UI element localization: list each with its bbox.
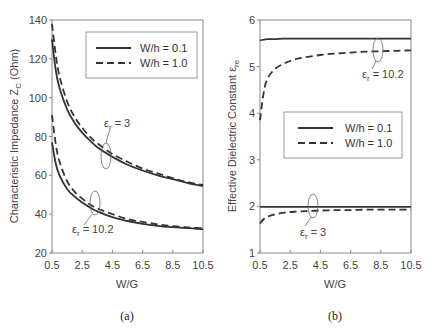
series-line-dashed (260, 50, 411, 120)
legend-b: W/h = 0.1 W/h = 1.0 (284, 112, 402, 158)
annotation-er10-b: εr = 10.2 (362, 38, 404, 83)
y-tick-label: 1 (249, 247, 255, 259)
y-tick-label: 40 (35, 208, 47, 220)
x-tick-label: 10.5 (192, 259, 213, 271)
y-tick-label: 20 (35, 247, 47, 259)
y-tick-label: 4 (249, 107, 255, 119)
annotation-label-er3-a: εr = 3 (104, 117, 130, 132)
x-tick-label: 0.5 (252, 259, 267, 271)
annotation-ellipse-er10-b (373, 38, 383, 62)
x-tick-label: 8.5 (165, 259, 180, 271)
x-tick-label: 2.5 (75, 259, 90, 271)
legend-label-solid-b: W/h = 0.1 (345, 122, 392, 134)
series-line-solid (52, 142, 203, 229)
legend-label-dashed-b: W/h = 1.0 (345, 137, 392, 149)
y-tick-label: 2 (249, 200, 255, 212)
legend-label-solid-a: W/h = 0.1 (140, 42, 187, 54)
legend-box-b (284, 112, 402, 158)
annotation-label-er3-b: εr = 3 (300, 226, 326, 241)
series-line-dashed (260, 210, 411, 224)
y-tick-label: 100 (29, 92, 47, 104)
y-tick-label: 60 (35, 169, 47, 181)
y-tick-label: 3 (249, 154, 255, 166)
legend-box-a (86, 32, 197, 78)
legend-a: W/h = 0.1 W/h = 1.0 (86, 32, 197, 78)
x-tick-label: 10.5 (400, 259, 421, 271)
figure: 20406080100120140 0.52.54.56.58.510.5 W/… (0, 0, 435, 334)
annotation-label-er10-a: εr = 10.2 (72, 223, 114, 238)
y-axis-label-a: Characteristic Impedance ZC (Ohm) (8, 49, 23, 224)
y-tick-label: 80 (35, 131, 47, 143)
y-tick-label: 6 (249, 14, 255, 26)
x-tick-label: 4.5 (313, 259, 328, 271)
y-tick-label: 120 (29, 53, 47, 65)
series-line-solid (260, 39, 411, 41)
annotation-ellipse-er10-a (90, 191, 100, 215)
x-axis-label-a: W/G (116, 278, 138, 290)
legend-label-dashed-a: W/h = 1.0 (140, 57, 187, 69)
x-axis-label-b: W/G (324, 278, 346, 290)
caption-a: (a) (120, 309, 133, 323)
panel-b: 123456 0.52.54.56.58.510.5 W/G Effective… (226, 14, 422, 323)
y-tick-label: 5 (249, 61, 255, 73)
annotation-leader-er3-b (305, 217, 311, 226)
panel-a: 20406080100120140 0.52.54.56.58.510.5 W/… (8, 14, 214, 323)
x-tick-label: 6.5 (343, 259, 358, 271)
x-tick-label: 2.5 (283, 259, 298, 271)
annotation-label-er10-b: εr = 10.2 (362, 68, 404, 83)
series-line-dashed (52, 115, 203, 228)
annotation-er3-b: εr = 3 (300, 194, 326, 241)
caption-b: (b) (328, 309, 342, 323)
y-ticks-b: 123456 (249, 14, 260, 259)
x-tick-label: 6.5 (135, 259, 150, 271)
x-tick-label: 4.5 (105, 259, 120, 271)
x-tick-label: 8.5 (373, 259, 388, 271)
y-tick-label: 140 (29, 14, 47, 26)
y-axis-label-b: Effective Dielectric Constant εre (226, 59, 241, 212)
x-tick-label: 0.5 (44, 259, 59, 271)
y-ticks-a: 20406080100120140 (29, 14, 52, 259)
